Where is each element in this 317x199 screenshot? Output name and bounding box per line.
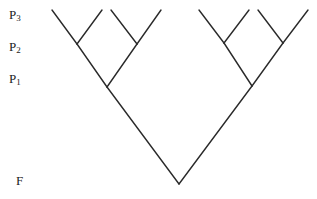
branch-p1r-p2rr bbox=[252, 43, 283, 86]
branch-p1l-p2lr bbox=[107, 44, 137, 87]
branch-p1r-p2rl bbox=[224, 43, 252, 86]
branch-leaf-8 bbox=[283, 10, 308, 43]
branch-leaf-1 bbox=[52, 10, 77, 44]
tree-branches bbox=[52, 10, 308, 184]
branch-p1l-p2ll bbox=[77, 44, 107, 87]
branch-leaf-6 bbox=[224, 10, 249, 43]
branch-leaf-3 bbox=[111, 10, 137, 44]
branch-leaf-5 bbox=[199, 10, 224, 43]
branch-root-right bbox=[179, 86, 252, 184]
branch-root-left bbox=[107, 87, 179, 184]
branch-leaf-2 bbox=[77, 10, 102, 44]
branch-leaf-4 bbox=[137, 10, 161, 44]
branch-leaf-7 bbox=[258, 10, 283, 43]
pedigree-tree bbox=[0, 0, 317, 199]
